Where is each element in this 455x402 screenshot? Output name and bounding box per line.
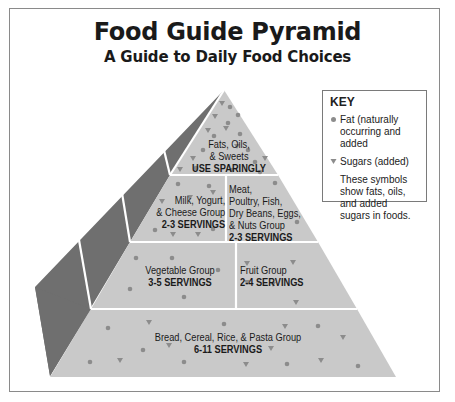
band-veg-fruit: [91, 242, 357, 309]
legend-key: KEY Fat (naturally occurring and added S…: [322, 90, 427, 202]
level-milk-label: Milk, Yogurt, & Cheese Group 2-3 SERVING…: [155, 194, 225, 230]
level-milk-servings: 2-3 SERVINGS: [155, 218, 225, 230]
level-fats-servings: USE SPARINGLY: [189, 162, 268, 174]
legend-item-fat: Fat (naturally occurring and added: [330, 114, 419, 150]
level-meat-servings: 2-3 SERVINGS: [229, 231, 308, 243]
legend-item-sugar: Sugars (added): [330, 156, 419, 168]
level-vegetable-servings: 3-5 SERVINGS: [136, 276, 224, 288]
level-vegetable-label: Vegetable Group 3-5 SERVINGS: [136, 264, 224, 288]
level-fruit-servings: 2-4 SERVINGS: [240, 276, 310, 288]
level-fats-label: Fats, Oils, & Sweets USE SPARINGLY: [189, 138, 268, 174]
triangle-down-icon: [330, 158, 337, 165]
legend-title: KEY: [330, 96, 419, 108]
circle-dot-icon: [330, 116, 337, 123]
level-bread-servings: 6-11 SERVINGS: [149, 343, 307, 355]
level-bread-label: Bread, Cereal, Rice, & Pasta Group 6-11 …: [149, 331, 307, 355]
legend-note: These symbols show fats, oils, and added…: [330, 174, 419, 222]
level-meat-label: Meat, Poultry, Fish, Dry Beans, Eggs, & …: [229, 183, 308, 243]
level-fruit-label: Fruit Group 2-4 SERVINGS: [240, 264, 310, 288]
